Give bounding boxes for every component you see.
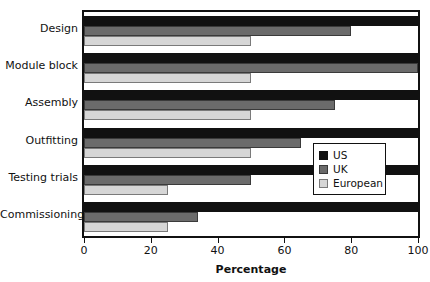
bar-uk <box>84 100 335 110</box>
legend-swatch-icon <box>319 179 328 188</box>
bar-european <box>84 222 168 232</box>
x-tick-label: 100 <box>408 244 429 257</box>
legend-swatch-icon <box>319 151 328 160</box>
plot-area <box>82 10 420 238</box>
y-tick-label: Module block <box>0 59 78 72</box>
y-axis-category-labels: DesignModule blockAssemblyOutfittingTest… <box>0 10 78 238</box>
bar-uk <box>84 212 198 222</box>
bar-european <box>84 36 251 46</box>
legend-item-us: US <box>319 148 380 162</box>
bar-uk <box>84 63 418 73</box>
legend-item-european: European <box>319 176 380 190</box>
bar-group <box>84 199 418 236</box>
x-tick-mark <box>418 238 419 243</box>
x-tick-label: 20 <box>144 244 158 257</box>
bar-uk <box>84 175 251 185</box>
legend-label: European <box>333 177 383 189</box>
x-tick-mark <box>284 238 285 243</box>
y-tick-label: Commissioning <box>0 208 78 221</box>
legend-label: UK <box>333 163 348 175</box>
x-tick-mark <box>84 238 85 243</box>
chart-legend: USUKEuropean <box>313 143 386 195</box>
x-tick-mark <box>151 238 152 243</box>
bar-european <box>84 185 168 195</box>
legend-label: US <box>333 149 347 161</box>
bar-chart-figure: DesignModule blockAssemblyOutfittingTest… <box>0 0 430 282</box>
bar-uk <box>84 26 351 36</box>
x-axis: Percentage 020406080100 <box>82 238 420 282</box>
x-axis-title: Percentage <box>82 263 420 276</box>
bar-european <box>84 73 251 83</box>
legend-swatch-icon <box>319 165 328 174</box>
x-tick-label: 0 <box>81 244 88 257</box>
y-tick-label: Design <box>0 22 78 35</box>
x-tick-label: 40 <box>211 244 225 257</box>
y-tick-label: Outfitting <box>0 134 78 147</box>
bar-us <box>84 16 418 26</box>
x-tick-label: 80 <box>344 244 358 257</box>
bar-us <box>84 53 418 63</box>
bar-us <box>84 90 418 100</box>
bar-european <box>84 110 251 120</box>
bar-group <box>84 49 418 86</box>
y-tick-label: Assembly <box>0 96 78 109</box>
bar-us <box>84 202 418 212</box>
bar-us <box>84 128 418 138</box>
x-tick-mark <box>351 238 352 243</box>
bar-group <box>84 87 418 124</box>
y-tick-label: Testing trials <box>0 171 78 184</box>
bar-group <box>84 12 418 49</box>
x-tick-label: 60 <box>277 244 291 257</box>
bar-european <box>84 148 251 158</box>
x-tick-mark <box>218 238 219 243</box>
bar-uk <box>84 138 301 148</box>
legend-item-uk: UK <box>319 162 380 176</box>
